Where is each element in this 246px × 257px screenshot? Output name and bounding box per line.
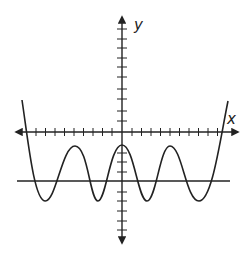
function-graph: y x (0, 0, 246, 257)
x-axis-label: x (226, 110, 236, 128)
function-curve (22, 100, 228, 201)
y-axis-label: y (133, 16, 144, 34)
